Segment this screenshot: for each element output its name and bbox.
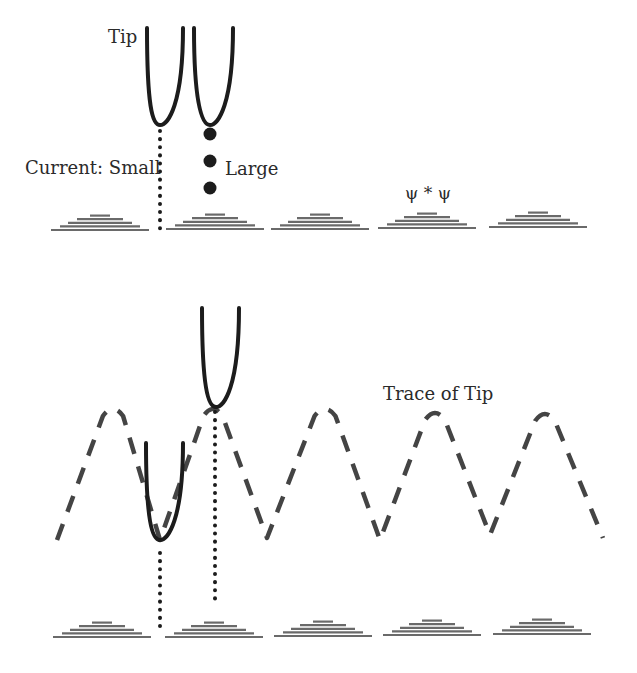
top-panel-constant-height-mode: Tip Current: Small Large ψ * ψ <box>25 26 587 230</box>
large-current-dots <box>204 128 217 195</box>
trace-of-tip-dashed-curve <box>57 409 603 540</box>
atom-icon <box>51 216 149 230</box>
atom-icon <box>271 215 369 229</box>
large-current-dot <box>204 128 217 141</box>
current-small-label: Current: Small <box>25 157 161 178</box>
tips-top <box>147 28 233 125</box>
atom-icon <box>166 215 264 229</box>
psi-star-psi-label: ψ * ψ <box>405 183 451 203</box>
atom-icon <box>493 620 591 634</box>
surface-atoms-row-top <box>51 213 587 230</box>
stm-tip-icon <box>202 308 239 407</box>
large-current-dot <box>204 155 217 168</box>
atom-icon <box>383 621 481 635</box>
atom-icon <box>165 623 263 637</box>
atom-icon <box>378 214 476 228</box>
atom-icon <box>53 623 151 637</box>
atom-icon <box>489 213 587 227</box>
bottom-panel-constant-current-mode: Trace of Tip <box>53 308 603 637</box>
tip-label: Tip <box>108 26 137 47</box>
stm-tip-icon <box>194 28 233 125</box>
stm-diagram: Tip Current: Small Large ψ * ψ Trace of … <box>0 0 637 673</box>
trace-of-tip-label: Trace of Tip <box>383 383 493 404</box>
atom-icon <box>274 622 372 636</box>
large-current-dot <box>204 182 217 195</box>
stm-tip-icon <box>147 28 183 125</box>
large-label: Large <box>225 158 278 179</box>
surface-atoms-row-bottom <box>53 620 591 637</box>
